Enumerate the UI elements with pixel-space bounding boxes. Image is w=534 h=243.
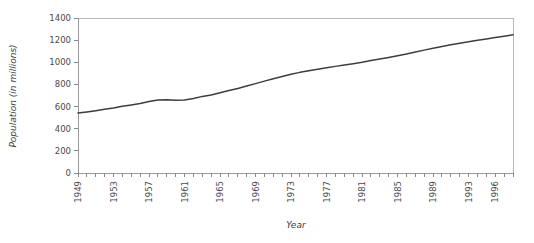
y-tick-label: 600: [55, 102, 71, 112]
series-layer: [78, 35, 513, 113]
x-axis-title: Year: [286, 220, 307, 230]
y-tick-label: 0: [66, 168, 71, 178]
y-tick-label: 200: [55, 146, 71, 156]
x-tick-label: 1985: [393, 181, 403, 203]
y-tick-label: 1400: [49, 13, 71, 23]
x-tick-label: 1949: [73, 181, 83, 203]
x-tick-label: 1965: [215, 181, 225, 203]
x-axis: 1949195319571961196519691973197719811985…: [73, 173, 513, 203]
y-tick-label: 1200: [49, 35, 71, 45]
x-tick-label: 1996: [490, 181, 500, 203]
x-tick-label: 1957: [144, 181, 154, 203]
plot-frame: [78, 18, 513, 173]
y-tick-label: 1000: [49, 57, 71, 67]
population-line-chart: 0200400600800100012001400 19491953195719…: [0, 0, 534, 243]
x-tick-label: 1993: [464, 181, 474, 203]
y-tick-label: 400: [55, 124, 71, 134]
x-tick-label: 1973: [286, 181, 296, 203]
x-tick-label: 1969: [251, 181, 261, 203]
x-tick-label: 1977: [322, 181, 332, 203]
x-tick-label: 1981: [357, 181, 367, 203]
x-tick-label: 1953: [109, 181, 119, 203]
chart-canvas: 0200400600800100012001400 19491953195719…: [0, 0, 534, 243]
x-tick-label: 1961: [180, 181, 190, 203]
y-tick-label: 800: [55, 79, 71, 89]
y-axis: 0200400600800100012001400: [49, 13, 78, 178]
x-tick-label: 1989: [428, 181, 438, 203]
series-line-population: [78, 35, 513, 113]
y-axis-title: Population (in millions): [8, 44, 18, 147]
